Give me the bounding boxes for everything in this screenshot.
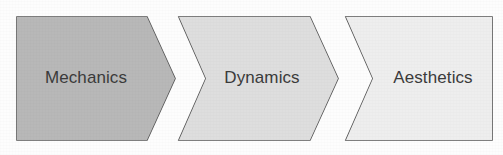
stage-label-aesthetics: Aesthetics: [393, 68, 472, 87]
stage-mechanics[interactable]: Mechanics: [17, 17, 175, 140]
process-flow-svg: Mechanics Dynamics Aesthetics: [0, 0, 503, 155]
stage-label-mechanics: Mechanics: [45, 68, 127, 87]
process-flow-diagram: Mechanics Dynamics Aesthetics: [0, 0, 503, 155]
stage-label-dynamics: Dynamics: [224, 68, 299, 87]
